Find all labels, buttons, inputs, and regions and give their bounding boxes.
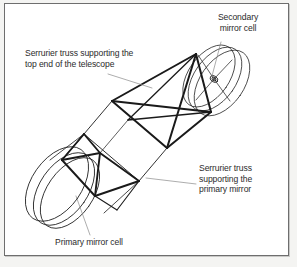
label-primary-mirror-cell: Primary mirror cell: [55, 237, 175, 248]
label-secondary-mirror-cell: Secondary mirror cell: [196, 12, 280, 33]
label-top-end-truss: Serrurier truss supporting the top end o…: [25, 48, 185, 69]
lower-serrurier-truss: [62, 134, 139, 196]
figure-page: Secondary mirror cell Serrurier truss su…: [0, 0, 297, 267]
secondary-ring: [172, 36, 261, 126]
leader-secondary: [212, 42, 221, 76]
label-primary-mirror-truss: Serrurier truss supporting the primary m…: [199, 163, 293, 195]
leader-top-truss: [108, 74, 152, 88]
telescope-truss-drawing: [0, 0, 297, 267]
leader-primary-truss: [146, 178, 196, 184]
leader-primary-cell: [76, 196, 90, 235]
